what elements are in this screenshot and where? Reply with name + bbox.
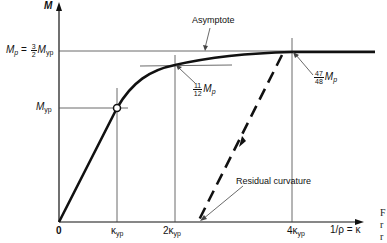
diagram-canvas: [0, 0, 387, 243]
residual-pointer: [203, 186, 243, 219]
point-47-48-label: 4748Mp: [313, 70, 337, 85]
side-text-1: F: [380, 207, 386, 218]
mp-tick-label: Mp = 32Myp: [6, 43, 53, 58]
myp-tick-label: Myp: [36, 101, 52, 113]
unloading-line: [198, 55, 282, 222]
point-47-48-pointer: [296, 55, 313, 75]
x-tick-kyp: κyp: [111, 225, 123, 237]
point-11-12-label: 1112Mp: [192, 82, 216, 97]
unloading-arrow-icon: [239, 136, 246, 147]
x-tick-4kyp: 4κyp: [287, 225, 305, 237]
y-axis-label: M: [44, 0, 52, 11]
yield-point-marker: [114, 105, 121, 112]
side-text-2: r: [380, 219, 383, 230]
tangent-line: [140, 65, 232, 66]
residual-curvature-label: Residual curvature: [236, 176, 311, 186]
asymptote-label: Asymptote: [192, 15, 235, 25]
asymptote-pointer: [205, 28, 210, 48]
y-axis-arrow-icon: [56, 2, 62, 11]
asymptote-pointer-arrow-icon: [203, 45, 208, 51]
x-axis-label: 1/ρ = κ: [330, 224, 360, 235]
origin-label: 0: [56, 225, 62, 236]
side-text-3: r: [380, 231, 383, 242]
x-tick-2kyp: 2κyp: [163, 225, 181, 237]
point-11-12-pointer: [179, 68, 195, 83]
